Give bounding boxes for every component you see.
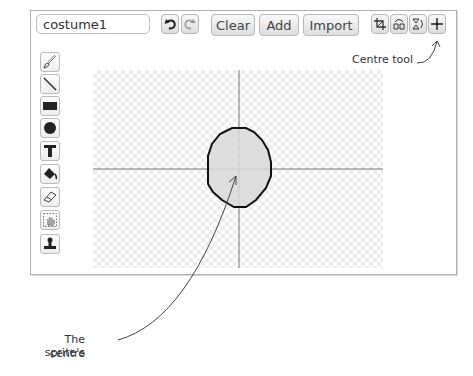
- select-tool[interactable]: [40, 210, 60, 230]
- sprite-centre-annotation-line2: centre: [33, 347, 85, 360]
- line-tool[interactable]: [40, 74, 60, 94]
- clear-button[interactable]: Clear: [211, 14, 255, 36]
- redo-icon: [184, 18, 196, 30]
- crop-icon: [374, 18, 386, 30]
- flip-horizontal-button[interactable]: [390, 14, 408, 34]
- undo-icon: [164, 18, 176, 30]
- undo-button[interactable]: [161, 14, 179, 34]
- eraser-tool[interactable]: [40, 187, 60, 207]
- rectangle-tool[interactable]: [40, 96, 60, 116]
- add-button[interactable]: Add: [259, 14, 299, 36]
- select-hand-icon: [43, 213, 57, 227]
- rectangle-icon: [43, 99, 57, 113]
- flip-horizontal-icon: [393, 18, 405, 30]
- text-icon: [43, 144, 57, 158]
- paint-bucket-icon: [43, 167, 57, 181]
- stamp-tool[interactable]: [40, 234, 60, 254]
- paintbrush-tool[interactable]: [40, 52, 60, 72]
- centre-tool-button[interactable]: [428, 14, 446, 34]
- paintbrush-icon: [43, 55, 57, 69]
- costume-name-input[interactable]: costume1: [36, 14, 150, 34]
- ellipse-icon: [43, 121, 57, 135]
- redo-button[interactable]: [181, 14, 199, 34]
- text-tool[interactable]: [40, 141, 60, 161]
- ellipse-tool[interactable]: [40, 118, 60, 138]
- line-icon: [43, 77, 57, 91]
- crop-button[interactable]: [371, 14, 389, 34]
- flip-vertical-icon: [412, 18, 424, 30]
- import-button[interactable]: Import: [303, 14, 359, 36]
- centre-tool-annotation: Centre tool: [352, 53, 413, 66]
- eraser-icon: [43, 190, 57, 204]
- fill-tool[interactable]: [40, 164, 60, 184]
- stamp-icon: [43, 237, 57, 251]
- drawing-canvas[interactable]: [93, 70, 383, 268]
- centre-icon: [431, 18, 443, 30]
- flip-vertical-button[interactable]: [409, 14, 427, 34]
